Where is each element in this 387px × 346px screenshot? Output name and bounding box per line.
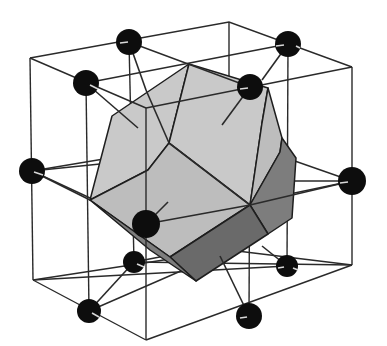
atom-lower-right — [276, 255, 298, 277]
atom-bottom-right — [236, 303, 262, 329]
atom-top-right-back — [275, 31, 301, 57]
atom-top-right-front — [237, 74, 263, 100]
atom-top-back — [116, 29, 142, 55]
atom-lower-left — [123, 251, 145, 273]
fcc-wigner-seitz-diagram — [0, 0, 387, 346]
atom-top-left-front — [73, 70, 99, 96]
atom-left-mid — [19, 158, 45, 184]
atom-bottom-left — [77, 299, 101, 323]
atom-right-mid — [338, 167, 366, 195]
atom-front-center — [132, 210, 160, 238]
